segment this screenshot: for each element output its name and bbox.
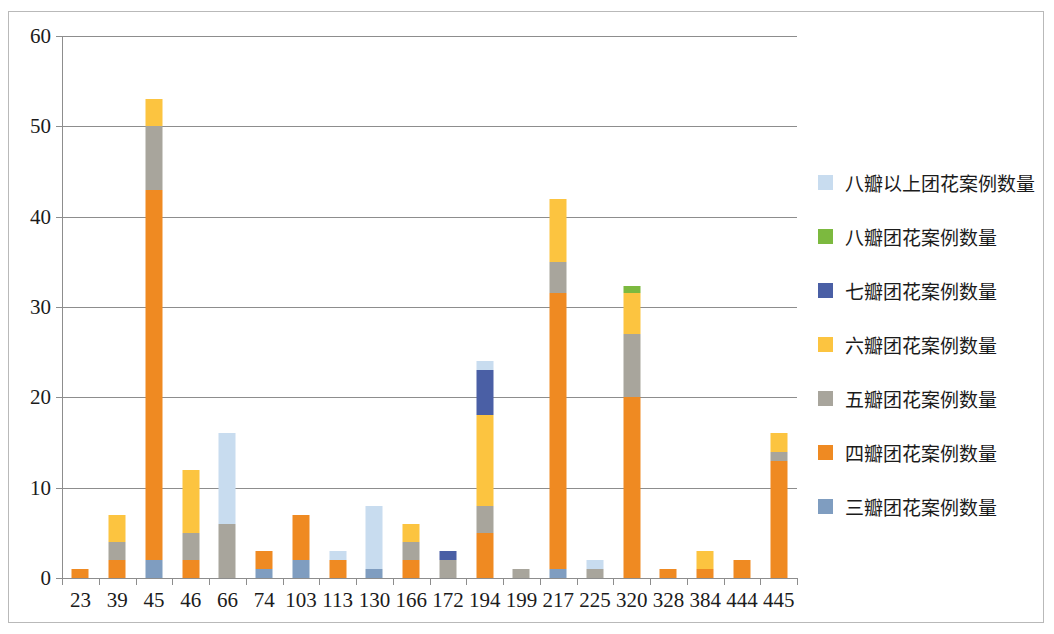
bar-segment [292, 560, 309, 578]
bar-segment [476, 361, 493, 370]
bar-slot [393, 36, 430, 578]
y-axis-tick-label: 60 [30, 26, 51, 47]
bar-stack[interactable] [109, 515, 126, 578]
bar-segment [476, 415, 493, 505]
bar-segment [182, 470, 199, 533]
bar-segment [256, 569, 273, 578]
bar-segment [329, 560, 346, 578]
bar-stack[interactable] [256, 551, 273, 578]
bar-slot [466, 36, 503, 578]
x-axis-tick-label: 130 [359, 590, 391, 611]
legend-item[interactable]: 五瓣团花案例数量 [818, 371, 1048, 425]
legend-item[interactable]: 八瓣以上团花案例数量 [818, 155, 1048, 209]
x-axis-tick-label: 199 [506, 590, 538, 611]
bar-stack[interactable] [292, 515, 309, 578]
x-axis-tick-mark [724, 578, 725, 585]
bar-stack[interactable] [182, 470, 199, 578]
x-axis-tick-label: 74 [254, 590, 275, 611]
legend-item[interactable]: 六瓣团花案例数量 [818, 317, 1048, 371]
x-axis-tick-mark [503, 578, 504, 585]
bar-segment [586, 560, 603, 569]
x-axis-tick-label: 384 [689, 590, 721, 611]
bar-stack[interactable] [660, 569, 677, 578]
bar-segment [219, 524, 236, 578]
bar-slot [687, 36, 724, 578]
bar-segment [586, 569, 603, 578]
x-axis-tick-label: 445 [763, 590, 795, 611]
bar-stack[interactable] [329, 551, 346, 578]
x-axis-tick-label: 444 [726, 590, 758, 611]
x-axis-tick-label: 217 [542, 590, 574, 611]
bar-stack[interactable] [586, 560, 603, 578]
x-axis-tick-mark [319, 578, 320, 585]
bar-segment [292, 515, 309, 560]
x-axis-tick-mark [246, 578, 247, 585]
bar-segment [660, 569, 677, 578]
bar-stack[interactable] [403, 524, 420, 578]
x-axis-tick-label: 172 [432, 590, 464, 611]
bar-segment [550, 199, 567, 262]
y-axis-tick-label: 10 [30, 477, 51, 498]
x-axis-tick-label: 23 [70, 590, 91, 611]
bar-segment [550, 293, 567, 569]
bar-stack[interactable] [366, 506, 383, 578]
x-axis-tick-mark [62, 578, 63, 585]
bar-segment [623, 397, 640, 578]
bar-segment [256, 551, 273, 569]
bar-stack[interactable] [72, 569, 89, 578]
bar-stack[interactable] [550, 199, 567, 578]
bar-segment [476, 370, 493, 415]
bar-slot [650, 36, 687, 578]
bar-slot [62, 36, 99, 578]
bar-stack[interactable] [476, 361, 493, 578]
x-axis-tick-label: 66 [217, 590, 238, 611]
bar-stack[interactable] [697, 551, 714, 578]
x-axis-tick-label: 194 [469, 590, 501, 611]
bar-slot [503, 36, 540, 578]
bar-stack[interactable] [513, 569, 530, 578]
stacked-bar-chart: 0102030405060 23394546667410311313016617… [0, 0, 1054, 634]
bars-layer [62, 36, 797, 578]
legend-item[interactable]: 三瓣团花案例数量 [818, 479, 1048, 533]
bar-segment [623, 293, 640, 334]
bar-segment [145, 560, 162, 578]
bar-stack[interactable] [623, 286, 640, 578]
x-axis-tick-label: 46 [180, 590, 201, 611]
y-axis-tick-label: 50 [30, 116, 51, 137]
bar-segment [439, 560, 456, 578]
x-axis-tick-label: 328 [653, 590, 685, 611]
bar-segment [72, 569, 89, 578]
bar-segment [366, 506, 383, 569]
x-axis-tick-mark [687, 578, 688, 585]
plot-area: 0102030405060 [62, 36, 797, 578]
x-axis-tick-mark [613, 578, 614, 585]
bar-segment [329, 551, 346, 560]
bar-stack[interactable] [219, 433, 236, 578]
bar-segment [145, 190, 162, 560]
x-axis-tick-mark [797, 578, 798, 585]
legend-item[interactable]: 四瓣团花案例数量 [818, 425, 1048, 479]
bar-segment [476, 533, 493, 578]
bar-stack[interactable] [439, 551, 456, 578]
bar-stack[interactable] [770, 433, 787, 578]
legend-swatch-icon [818, 337, 833, 352]
legend: 八瓣以上团花案例数量八瓣团花案例数量七瓣团花案例数量六瓣团花案例数量五瓣团花案例… [818, 155, 1048, 533]
legend-swatch-icon [818, 283, 833, 298]
legend-item[interactable]: 七瓣团花案例数量 [818, 263, 1048, 317]
bar-segment [623, 334, 640, 397]
legend-item[interactable]: 八瓣团花案例数量 [818, 209, 1048, 263]
x-axis-tick-mark [760, 578, 761, 585]
x-axis-tick-mark [283, 578, 284, 585]
legend-item-label: 三瓣团花案例数量 [845, 493, 997, 520]
bar-segment [476, 506, 493, 533]
legend-item-label: 七瓣团花案例数量 [845, 277, 997, 304]
bar-segment [109, 542, 126, 560]
bar-stack[interactable] [145, 99, 162, 578]
legend-item-label: 四瓣团花案例数量 [845, 439, 997, 466]
bar-stack[interactable] [733, 560, 750, 578]
y-axis-tick-label: 40 [30, 206, 51, 227]
y-axis-tick-label: 0 [41, 568, 52, 589]
bar-slot [430, 36, 467, 578]
bar-segment [770, 452, 787, 461]
x-axis-tick-mark [577, 578, 578, 585]
